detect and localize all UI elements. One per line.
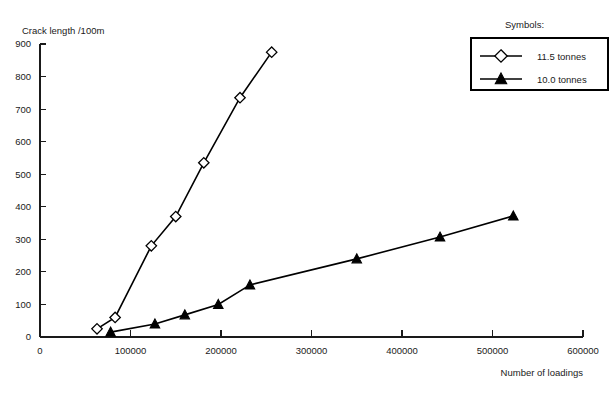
x-tick-label: 600000 [567, 345, 599, 356]
data-point-marker [199, 158, 209, 168]
data-point-marker [509, 211, 519, 220]
x-tick-label: 200000 [205, 345, 237, 356]
y-tick-label: 0 [26, 331, 31, 342]
data-series [92, 47, 277, 334]
y-tick-label: 300 [15, 234, 31, 245]
y-tick-label: 800 [15, 71, 31, 82]
y-tick-label: 900 [15, 38, 31, 49]
y-tick-label: 500 [15, 169, 31, 180]
x-tick-label: 400000 [386, 345, 418, 356]
x-tick-label: 0 [37, 345, 42, 356]
x-axis-ticks: 0100000200000300000400000500000600000 [37, 330, 599, 356]
y-axis-title: Crack length /100m [22, 25, 104, 36]
series-polyline [111, 216, 514, 332]
data-series [106, 211, 518, 336]
line-chart: Crack length /100m Number of loadings 01… [0, 0, 615, 394]
data-point-marker [235, 93, 245, 103]
chart-container: Crack length /100m Number of loadings 01… [0, 0, 615, 394]
x-tick-label: 300000 [296, 345, 328, 356]
y-axis-ticks: 0100200300400500600700800900 [15, 38, 46, 342]
y-tick-label: 200 [15, 266, 31, 277]
data-point-marker [214, 299, 224, 308]
x-axis-title: Number of loadings [501, 367, 584, 378]
legend-heading: Symbols: [505, 19, 544, 30]
legend-label: 11.5 tonnes [537, 51, 586, 62]
y-tick-label: 600 [15, 136, 31, 147]
legend-label: 10.0 tonnes [537, 74, 587, 85]
data-point-marker [110, 312, 120, 322]
y-tick-label: 100 [15, 299, 31, 310]
y-tick-label: 400 [15, 201, 31, 212]
x-tick-label: 100000 [115, 345, 147, 356]
data-point-marker [92, 324, 102, 334]
y-tick-label: 700 [15, 104, 31, 115]
x-tick-label: 500000 [477, 345, 509, 356]
data-point-marker [266, 47, 276, 57]
series-layer [92, 47, 518, 336]
